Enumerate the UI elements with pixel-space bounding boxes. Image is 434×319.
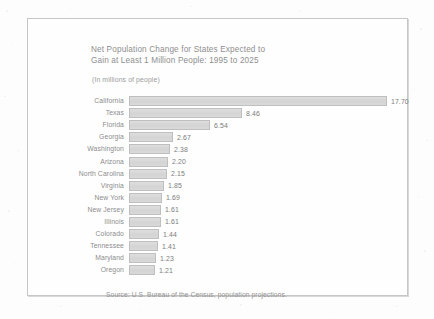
bar-row: North Carolina2.15 <box>61 168 431 180</box>
scan-speckle <box>300 10 301 12</box>
bar-segment <box>129 169 167 179</box>
bar-track: 1.69 <box>129 193 431 203</box>
bar-track: 2.38 <box>129 144 431 154</box>
bar-value-label: 2.38 <box>174 145 188 154</box>
scan-speckle <box>4 96 6 97</box>
scan-speckle <box>70 8 71 9</box>
chart-title-line-2: Gain at Least 1 Million People: 1995 to … <box>91 56 391 67</box>
scan-speckle <box>420 28 422 30</box>
bar-category-label: Tennessee <box>61 242 129 250</box>
bar-row: Tennessee1.41 <box>61 240 431 252</box>
bar-category-label: Florida <box>61 121 129 129</box>
bar-value-label: 6.54 <box>214 121 228 130</box>
bar-category-label: New York <box>61 194 129 202</box>
bar-category-label: Georgia <box>61 133 129 141</box>
bar-track: 2.67 <box>129 132 431 142</box>
bar-segment <box>129 96 387 106</box>
bar-category-label: Virginia <box>61 182 129 190</box>
bar-category-label: Maryland <box>61 254 129 262</box>
bar-row: Texas8.46 <box>61 107 431 119</box>
scan-speckle <box>140 310 141 311</box>
chart-subtitle-units: (In millions of people) <box>92 76 160 83</box>
bar-value-label: 2.67 <box>177 133 191 142</box>
scan-speckle <box>6 10 8 12</box>
bar-segment <box>129 205 161 215</box>
bar-row: Oregon1.21 <box>61 264 431 276</box>
bar-row: Arizona2.20 <box>61 155 431 167</box>
chart-title: Net Population Change for States Expecte… <box>91 45 391 66</box>
bar-value-label: 17.70 <box>391 97 409 106</box>
bar-category-label: Washington <box>61 145 129 153</box>
bar-row: Washington2.38 <box>61 143 431 155</box>
bar-category-label: Arizona <box>61 158 129 166</box>
bar-row: Illinois1.61 <box>61 216 431 228</box>
bar-segment <box>129 120 210 130</box>
bar-track: 2.20 <box>129 157 431 167</box>
scan-speckle <box>370 4 371 5</box>
bar-track: 1.21 <box>129 265 431 275</box>
bar-row: Virginia1.85 <box>61 180 431 192</box>
bar-value-label: 1.41 <box>162 242 176 251</box>
bar-value-label: 1.44 <box>163 230 177 239</box>
bar-track: 8.46 <box>129 108 431 118</box>
bar-track: 1.61 <box>129 205 431 215</box>
bar-segment <box>129 229 159 239</box>
bar-track: 1.41 <box>129 241 431 251</box>
chart-title-line-1: Net Population Change for States Expecte… <box>91 45 391 56</box>
bar-value-label: 8.46 <box>246 109 260 118</box>
bar-category-label: California <box>61 97 129 105</box>
bar-chart-plot-area: California17.70Texas8.46Florida6.54Georg… <box>61 95 431 281</box>
bar-segment <box>129 132 173 142</box>
bar-value-label: 1.21 <box>159 266 173 275</box>
bar-value-label: 1.61 <box>165 217 179 226</box>
bar-row: Florida6.54 <box>61 119 431 131</box>
bar-track: 17.70 <box>129 96 431 106</box>
bar-row: Georgia2.67 <box>61 131 431 143</box>
scan-speckle <box>14 262 15 263</box>
bar-value-label: 1.69 <box>166 193 180 202</box>
scan-speckle <box>396 306 398 307</box>
bar-segment <box>129 253 156 263</box>
scan-speckle <box>12 44 13 45</box>
bar-segment <box>129 241 158 251</box>
bar-segment <box>129 193 162 203</box>
scan-speckle <box>8 210 10 212</box>
bar-row: New Jersey1.61 <box>61 204 431 216</box>
scan-speckle <box>18 150 19 152</box>
bar-value-label: 2.20 <box>172 157 186 166</box>
bar-segment <box>129 157 168 167</box>
scan-speckle <box>418 196 419 198</box>
bar-value-label: 2.15 <box>171 169 185 178</box>
bar-segment <box>129 265 155 275</box>
bar-value-label: 1.85 <box>168 181 182 190</box>
scan-speckle <box>414 88 415 89</box>
bar-category-label: Oregon <box>61 266 129 274</box>
bar-category-label: North Carolina <box>61 170 129 178</box>
bar-category-label: New Jersey <box>61 206 129 214</box>
scan-speckle <box>330 312 331 313</box>
scan-speckle <box>424 250 426 252</box>
bar-value-label: 1.23 <box>160 254 174 263</box>
bar-segment <box>129 144 170 154</box>
scan-speckle <box>190 6 192 7</box>
chart-source-note: Source: U.S. Bureau of the Census, popul… <box>106 291 287 298</box>
bar-track: 1.44 <box>129 229 431 239</box>
bar-row: Maryland1.23 <box>61 252 431 264</box>
bar-row: California17.70 <box>61 95 431 107</box>
scan-speckle <box>426 140 428 141</box>
bar-row: Colorado1.44 <box>61 228 431 240</box>
bar-track: 1.61 <box>129 217 431 227</box>
bar-track: 6.54 <box>129 120 431 130</box>
bar-segment <box>129 217 161 227</box>
bar-category-label: Colorado <box>61 230 129 238</box>
bar-value-label: 1.61 <box>165 205 179 214</box>
page-background: Net Population Change for States Expecte… <box>0 0 434 319</box>
bar-track: 2.15 <box>129 169 431 179</box>
scan-speckle <box>240 304 242 306</box>
bar-track: 1.85 <box>129 181 431 191</box>
bar-track: 1.23 <box>129 253 431 263</box>
bar-category-label: Texas <box>61 109 129 117</box>
bar-row: New York1.69 <box>61 192 431 204</box>
scan-speckle <box>60 306 62 307</box>
bar-segment <box>129 181 164 191</box>
